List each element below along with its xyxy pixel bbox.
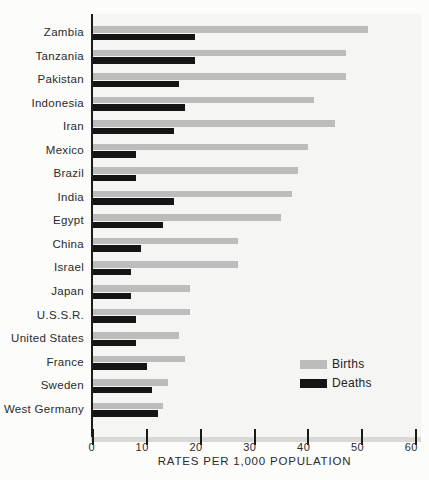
- bar-row: Iran: [93, 120, 416, 144]
- births-bar: [93, 356, 185, 363]
- category-label: West Germany: [0, 402, 84, 417]
- deaths-bar: [93, 222, 163, 229]
- deaths-bar: [93, 269, 131, 276]
- births-bar: [93, 191, 292, 198]
- x-axis-tick-label: 0: [59, 441, 95, 453]
- deaths-bar: [93, 363, 147, 370]
- bar-row: United States: [93, 332, 416, 356]
- x-axis-title: RATES PER 1,000 POPULATION: [93, 455, 416, 467]
- category-label: Sweden: [0, 378, 84, 393]
- bar-row: Egypt: [93, 214, 416, 238]
- category-label: Tanzania: [0, 49, 84, 64]
- deaths-bar: [93, 151, 136, 158]
- deaths-bar: [93, 175, 136, 182]
- bar-row: West Germany: [93, 403, 416, 427]
- deaths-bar: [93, 340, 136, 347]
- births-bar: [93, 167, 298, 174]
- deaths-bar: [93, 81, 179, 88]
- bar-row: Brazil: [93, 167, 416, 191]
- deaths-bar: [93, 104, 185, 111]
- category-label: U.S.S.R.: [0, 308, 84, 323]
- births-bar: [93, 97, 314, 104]
- births-bar: [93, 144, 308, 151]
- births-bar: [93, 26, 368, 33]
- x-axis-tick-label: 30: [221, 441, 257, 453]
- deaths-bar: [93, 245, 141, 252]
- category-label: Indonesia: [0, 96, 84, 111]
- category-label: Zambia: [0, 25, 84, 40]
- category-label: China: [0, 237, 84, 252]
- x-axis-tick-label: 10: [113, 441, 149, 453]
- x-axis-tick-label: 40: [274, 441, 310, 453]
- deaths-bar: [93, 293, 131, 300]
- legend-deaths-swatch: [300, 379, 327, 388]
- bar-row: India: [93, 191, 416, 215]
- bar-row: China: [93, 238, 416, 262]
- births-bar: [93, 403, 163, 410]
- category-label: Iran: [0, 119, 84, 134]
- category-label: Brazil: [0, 166, 84, 181]
- deaths-bar: [93, 410, 158, 417]
- births-bar: [93, 261, 238, 268]
- category-label: France: [0, 355, 84, 370]
- bar-row: Israel: [93, 261, 416, 285]
- legend-births-row: Births: [300, 357, 372, 371]
- births-bar: [93, 50, 346, 57]
- deaths-bar: [93, 198, 174, 205]
- category-label: Israel: [0, 260, 84, 275]
- bar-row: Indonesia: [93, 97, 416, 121]
- deaths-bar: [93, 34, 195, 41]
- births-bar: [93, 379, 168, 386]
- x-axis-tick-label: 60: [382, 441, 418, 453]
- bar-row: Pakistan: [93, 73, 416, 97]
- legend-births-swatch: [300, 360, 327, 369]
- bar-row: Tanzania: [93, 50, 416, 74]
- category-label: Mexico: [0, 143, 84, 158]
- bar-chart: ZambiaTanzaniaPakistanIndonesiaIranMexic…: [0, 0, 429, 480]
- bar-row: Japan: [93, 285, 416, 309]
- births-bar: [93, 332, 179, 339]
- legend-deaths-row: Deaths: [300, 376, 372, 390]
- x-axis-tick-label: 50: [328, 441, 364, 453]
- bar-row: Zambia: [93, 26, 416, 50]
- category-label: United States: [0, 331, 84, 346]
- births-bar: [93, 285, 190, 292]
- legend: Births Deaths: [300, 357, 372, 395]
- births-bar: [93, 238, 238, 245]
- category-label: Japan: [0, 284, 84, 299]
- bar-row: U.S.S.R.: [93, 309, 416, 333]
- births-bar: [93, 309, 190, 316]
- category-label: Pakistan: [0, 72, 84, 87]
- births-bar: [93, 120, 335, 127]
- deaths-bar: [93, 57, 195, 64]
- deaths-bar: [93, 387, 152, 394]
- legend-deaths-label: Deaths: [332, 376, 372, 390]
- bar-row: Mexico: [93, 144, 416, 168]
- x-axis-tick-label: 20: [167, 441, 203, 453]
- category-label: India: [0, 190, 84, 205]
- births-bar: [93, 73, 346, 80]
- legend-births-label: Births: [332, 357, 364, 371]
- deaths-bar: [93, 128, 174, 135]
- births-bar: [93, 214, 281, 221]
- category-label: Egypt: [0, 213, 84, 228]
- deaths-bar: [93, 316, 136, 323]
